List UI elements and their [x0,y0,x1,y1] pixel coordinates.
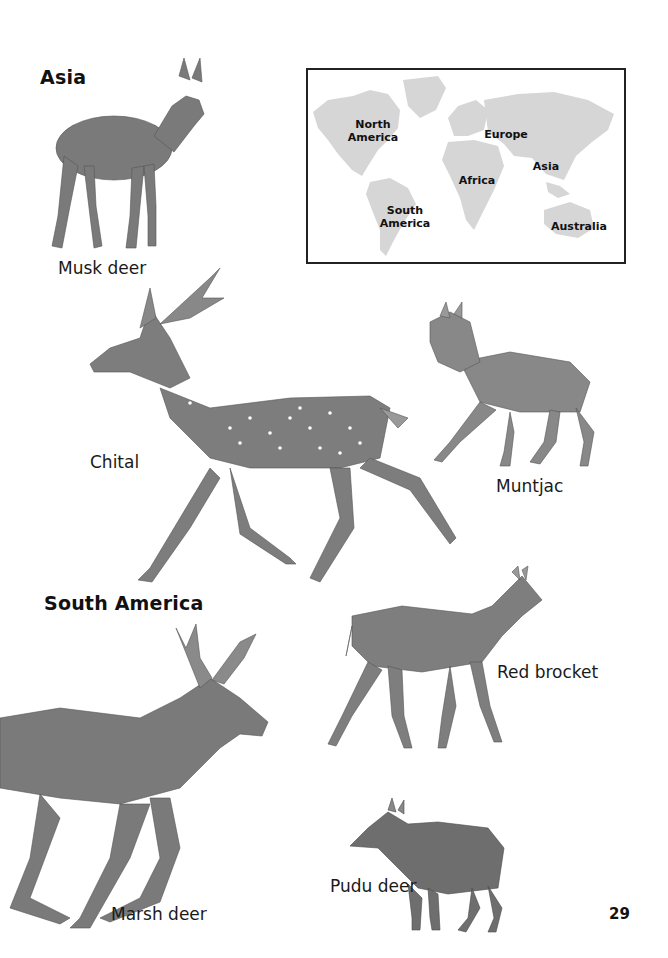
map-label-australia: Australia [544,220,614,233]
world-map-icon [308,70,624,262]
map-label-south-america: South America [374,204,436,230]
musk-deer-illustration [44,56,224,256]
map-label-europe: Europe [476,128,536,141]
animal-label-chital: Chital [90,452,139,472]
animal-label-muntjac: Muntjac [496,476,563,496]
animal-label-marsh-deer: Marsh deer [111,904,207,924]
muntjac-illustration [420,302,600,472]
animal-label-pudu-deer: Pudu deer [330,876,416,896]
red-brocket-illustration [322,566,552,756]
map-label-north-america: North America [338,118,408,144]
page-number: 29 [609,905,630,923]
marsh-deer-illustration [0,618,270,938]
world-map-inset: North America South America Europe Afric… [306,68,626,264]
animal-label-red-brocket: Red brocket [497,662,598,682]
map-label-asia: Asia [526,160,566,173]
section-heading-south-america: South America [44,592,203,614]
pudu-deer-illustration [348,798,508,938]
chital-illustration [90,268,470,588]
map-label-africa: Africa [452,174,502,187]
